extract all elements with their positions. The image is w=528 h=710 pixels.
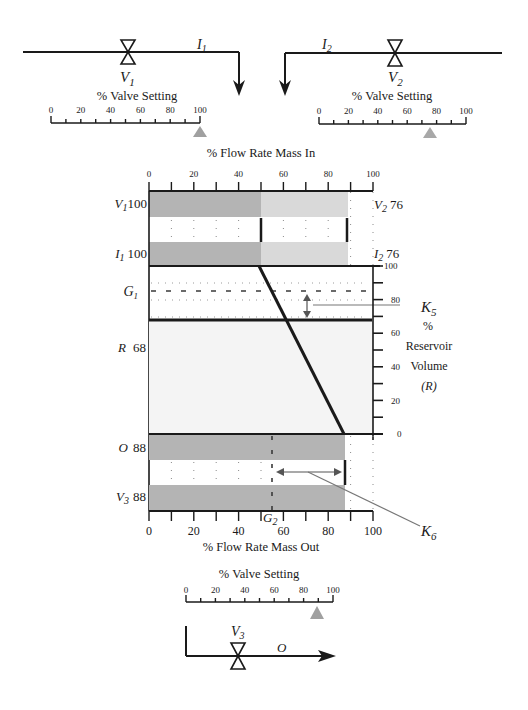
svg-text:80: 80 xyxy=(299,585,309,595)
svg-text:Reservoir: Reservoir xyxy=(406,339,453,353)
svg-text:40: 40 xyxy=(391,362,401,372)
row-label-v3: V388 xyxy=(116,489,146,506)
svg-text:20: 20 xyxy=(211,585,221,595)
reservoir-volume-axis: 100 80 60 40 20 0 xyxy=(373,261,402,440)
pipe-o-label: O xyxy=(277,640,287,655)
v1-bar xyxy=(149,192,261,217)
svg-text:100: 100 xyxy=(384,261,398,271)
svg-text:(R): (R) xyxy=(421,379,436,393)
k5-label: K5 xyxy=(420,299,437,318)
svg-text:100: 100 xyxy=(366,169,380,179)
valve-scale-title-v1: % Valve Setting xyxy=(97,89,178,103)
svg-text:40: 40 xyxy=(233,524,245,538)
row-label-i1: I1100 xyxy=(114,246,147,263)
svg-text:40: 40 xyxy=(106,105,116,115)
svg-text:0: 0 xyxy=(147,169,152,179)
svg-text:80: 80 xyxy=(166,105,176,115)
reservoir-fill xyxy=(149,320,373,434)
svg-text:0: 0 xyxy=(317,106,322,116)
svg-text:%: % xyxy=(423,319,433,333)
svg-text:20: 20 xyxy=(188,524,200,538)
valve-scale-v2: 0 20 40 60 80 100 xyxy=(317,106,474,124)
svg-text:0: 0 xyxy=(49,105,54,115)
svg-text:60: 60 xyxy=(277,524,289,538)
svg-text:100: 100 xyxy=(459,106,473,116)
v3-bar xyxy=(149,485,345,510)
svg-text:0: 0 xyxy=(184,585,189,595)
valve-scale-v1: 0 20 40 60 80 100 xyxy=(49,105,208,123)
svg-text:60: 60 xyxy=(136,105,146,115)
svg-text:40: 40 xyxy=(234,169,244,179)
svg-text:100: 100 xyxy=(326,585,340,595)
top-axis-title: % Flow Rate Mass In xyxy=(207,146,316,160)
valve-scale-title-v2: % Valve Setting xyxy=(352,89,433,103)
svg-text:80: 80 xyxy=(391,295,401,305)
v2-bar xyxy=(261,192,348,217)
o-bar xyxy=(149,435,345,460)
row-label-o: O88 xyxy=(119,440,146,455)
right-axis-title: % Reservoir Volume (R) xyxy=(406,319,453,393)
row-label-v2: V276 xyxy=(374,197,403,214)
svg-text:60: 60 xyxy=(270,585,280,595)
svg-text:0: 0 xyxy=(146,524,152,538)
i2-bar xyxy=(261,242,348,266)
valve-v3-pointer[interactable] xyxy=(310,606,324,619)
g1-label: G1 xyxy=(123,284,138,301)
k6-label: K6 xyxy=(420,523,437,542)
i1-bar xyxy=(149,242,261,266)
svg-text:100: 100 xyxy=(364,524,382,538)
top-flow-axis: 0 20 40 60 80 100 xyxy=(147,169,381,191)
svg-text:80: 80 xyxy=(432,106,442,116)
valve-v2-label: V2 xyxy=(388,69,403,88)
svg-text:20: 20 xyxy=(189,169,199,179)
svg-text:40: 40 xyxy=(373,106,383,116)
valve-v3-label: V3 xyxy=(231,624,245,641)
svg-text:60: 60 xyxy=(391,328,401,338)
svg-text:20: 20 xyxy=(391,396,401,406)
pipe-i1-label: I1 xyxy=(196,37,207,54)
outflow-pipe xyxy=(186,626,336,662)
valve-v2-pointer[interactable] xyxy=(423,127,437,138)
row-label-v1: V1100 xyxy=(115,196,147,213)
g2-label: G2 xyxy=(263,510,277,527)
svg-text:100: 100 xyxy=(193,105,207,115)
svg-text:40: 40 xyxy=(240,585,250,595)
valve-v1-pointer[interactable] xyxy=(193,126,207,137)
reservoir-diagram: I1 V1 % Valve Setting 0 20 40 60 80 100 xyxy=(0,0,528,710)
valve-scale-v3: 0 20 40 60 80 100 xyxy=(184,585,341,602)
row-label-r: R68 xyxy=(117,340,146,355)
pipe-i2-label: I2 xyxy=(321,37,332,54)
svg-text:60: 60 xyxy=(403,106,413,116)
valve-v1-label: V1 xyxy=(120,69,135,88)
svg-text:20: 20 xyxy=(344,106,354,116)
svg-text:80: 80 xyxy=(322,524,334,538)
svg-text:0: 0 xyxy=(397,429,402,439)
svg-text:60: 60 xyxy=(279,169,289,179)
svg-text:80: 80 xyxy=(324,169,334,179)
bottom-axis-title: % Flow Rate Mass Out xyxy=(203,540,320,554)
svg-text:Volume: Volume xyxy=(410,359,447,373)
k5-deviation-indicator xyxy=(303,294,400,318)
svg-text:20: 20 xyxy=(76,105,86,115)
valve-scale-title-v3: % Valve Setting xyxy=(219,567,300,581)
